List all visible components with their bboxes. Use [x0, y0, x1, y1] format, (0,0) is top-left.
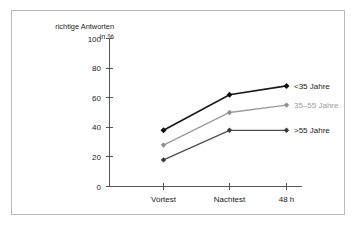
y-axis-title-line1: richtige Antworten [55, 22, 114, 31]
y-tick-label-20: 20 [92, 153, 101, 162]
line-chart: richtige Antworten in % 100 80 60 40 20 … [12, 11, 344, 214]
chart-page: richtige Antworten in % 100 80 60 40 20 … [0, 0, 358, 228]
series-over-55 [161, 128, 289, 163]
figure-frame: richtige Antworten in % 100 80 60 40 20 … [11, 10, 345, 215]
y-tick-label-60: 60 [92, 94, 101, 103]
series-35-to-55 [161, 102, 289, 147]
x-tick-label-vortest: Vortest [151, 195, 177, 204]
y-tick-label-100: 100 [88, 35, 102, 44]
series-under-35 [161, 83, 290, 133]
y-tick-label-0: 0 [97, 183, 102, 192]
y-tick-label-80: 80 [92, 64, 101, 73]
y-axis-title-line2: in % [100, 32, 115, 41]
x-tick-label-nachtest: Nachtest [214, 195, 246, 204]
legend-label-35-to-55: 35–55 Jahre [294, 101, 339, 110]
legend-label-over-55: >55 Jahre [294, 126, 330, 135]
legend-label-under-35: <35 Jahre [294, 82, 330, 91]
x-tick-label-48h: 48 h [279, 195, 295, 204]
y-tick-label-40: 40 [92, 123, 101, 132]
